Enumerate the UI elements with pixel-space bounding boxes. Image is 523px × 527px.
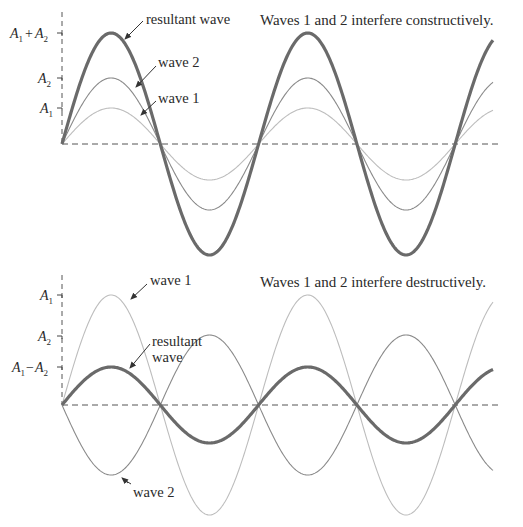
constructive-panel: A1+A2 A2 A1 Waves 1 and 2 interfere cons… [9, 11, 500, 255]
resultant-arrow-icon [130, 344, 150, 368]
svg-text:A2: A2 [37, 71, 51, 89]
tick-a2: A2 [37, 71, 62, 89]
constructive-caption: Waves 1 and 2 interfere constructively. [260, 12, 494, 28]
resultant-wave-label-line-1: resultant [152, 333, 202, 349]
tick-a1: A1 [39, 288, 62, 306]
wave-2-arrow-icon [122, 478, 128, 483]
wave-1-arrow-icon [131, 284, 147, 299]
svg-text:A2: A2 [37, 329, 51, 347]
tick-a1-plus-a2: A1+A2 [9, 26, 62, 44]
resultant-wave-label-line-2: wave [152, 349, 183, 365]
svg-text:A1: A1 [39, 288, 53, 306]
wave-1-label: wave 1 [150, 272, 191, 288]
tick-a1-minus-a2: A1−A2 [11, 360, 62, 378]
wave-2-label: wave 2 [133, 484, 174, 500]
tick-a2: A2 [37, 329, 62, 347]
svg-text:A1−A2: A1−A2 [11, 360, 48, 378]
wave-interference-diagram: A1+A2 A2 A1 Waves 1 and 2 interfere cons… [0, 0, 523, 527]
destructive-panel: A1 A2 A1−A2 Waves 1 and 2 interfere dest… [11, 272, 500, 515]
destructive-caption: Waves 1 and 2 interfere destructively. [260, 274, 486, 290]
wave-2-label: wave 2 [158, 54, 199, 70]
tick-a1: A1 [39, 101, 62, 119]
svg-text:A1: A1 [39, 101, 53, 119]
resultant-wave-label: resultant wave [146, 11, 230, 27]
wave-1-label: wave 1 [158, 90, 199, 106]
svg-text:A1+A2: A1+A2 [9, 26, 48, 44]
resultant-arrow-icon [125, 21, 143, 39]
